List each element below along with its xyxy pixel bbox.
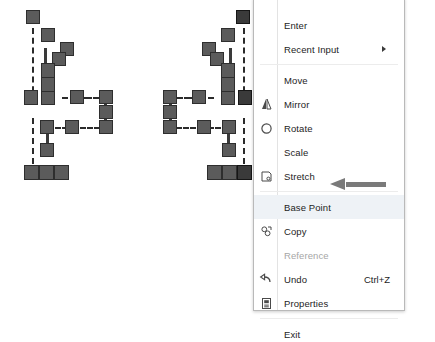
menu-separator xyxy=(260,191,398,192)
menu-separator xyxy=(260,318,398,319)
chevron-right-icon xyxy=(382,46,386,52)
properties-icon xyxy=(254,291,278,315)
cad-drawing-canvas[interactable] xyxy=(0,0,260,328)
grip-handle[interactable] xyxy=(221,63,235,78)
grip-handle[interactable] xyxy=(221,28,235,42)
menu-item-label: Undo xyxy=(284,274,307,285)
base-point-callout-arrow xyxy=(330,178,386,191)
grip-handle[interactable] xyxy=(163,105,177,119)
menu-item-reference: Reference xyxy=(254,243,404,267)
menu-item-label: Stretch xyxy=(284,171,315,182)
menu-separator xyxy=(260,64,398,65)
mirror-icon xyxy=(254,92,278,116)
grip-handle[interactable] xyxy=(221,91,235,105)
grip-handle[interactable] xyxy=(207,165,222,180)
grip-handle[interactable] xyxy=(26,10,40,24)
grip-handle[interactable] xyxy=(70,90,84,104)
grip-handle[interactable] xyxy=(39,165,54,180)
menu-item-scale[interactable]: Scale xyxy=(254,140,404,164)
menu-item-label: Properties xyxy=(284,298,328,309)
menu-item-base-point[interactable]: Base Point xyxy=(254,195,404,219)
grip-handle[interactable] xyxy=(65,120,79,134)
grip-handle[interactable] xyxy=(41,28,55,42)
grip-handle[interactable] xyxy=(236,10,250,24)
grip-handle[interactable] xyxy=(99,105,113,119)
dashed-line xyxy=(32,118,34,164)
menu-item-exit[interactable]: Exit xyxy=(254,322,404,342)
grip-handle[interactable] xyxy=(24,165,39,180)
grip-handle[interactable] xyxy=(41,77,55,92)
stretch-icon xyxy=(254,164,278,188)
menu-item-label: Recent Input xyxy=(284,44,339,55)
arrow-shaft xyxy=(346,182,386,187)
copy-icon xyxy=(254,219,278,243)
grip-handle[interactable] xyxy=(41,91,55,105)
menu-item-label: Base Point xyxy=(284,202,331,213)
dashed-line xyxy=(80,127,100,129)
dashed-line xyxy=(176,127,196,129)
dashed-line xyxy=(243,118,245,164)
grip-handle[interactable] xyxy=(163,90,177,104)
grip-handle[interactable] xyxy=(99,90,113,104)
grip-handle[interactable] xyxy=(40,143,54,157)
menu-item-copy[interactable]: Copy xyxy=(254,219,404,243)
menu-item-label: Scale xyxy=(284,147,308,158)
grip-handle[interactable] xyxy=(163,120,177,134)
grip-handle[interactable] xyxy=(40,120,54,134)
grip-handle[interactable] xyxy=(197,120,211,134)
menu-item-label: Reference xyxy=(284,250,329,261)
menu-item-enter[interactable]: Enter xyxy=(254,13,404,37)
menu-item-recent-input[interactable]: Recent Input xyxy=(254,37,404,61)
menu-item-list: Enter Recent Input Move Mirror xyxy=(254,0,404,342)
grip-handle[interactable] xyxy=(237,165,252,180)
grip-handle[interactable] xyxy=(238,90,252,105)
menu-item-label: Rotate xyxy=(284,123,313,134)
menu-item-move[interactable]: Move xyxy=(254,68,404,92)
arrow-head xyxy=(330,178,345,190)
menu-item-mirror[interactable]: Mirror xyxy=(254,92,404,116)
menu-item-accelerator: Ctrl+Z xyxy=(364,274,390,285)
menu-item-label: Enter xyxy=(284,20,307,31)
undo-icon xyxy=(254,267,278,291)
menu-item-label: Exit xyxy=(284,329,300,340)
grip-handle[interactable] xyxy=(221,77,235,92)
grip-handle[interactable] xyxy=(41,63,55,78)
menu-item-properties[interactable]: Properties xyxy=(254,291,404,315)
grip-handle[interactable] xyxy=(24,90,38,105)
menu-item-label: Mirror xyxy=(284,99,309,110)
grip-handle[interactable] xyxy=(99,120,113,134)
menu-item-label: Move xyxy=(284,75,308,86)
grip-handle[interactable] xyxy=(222,120,236,134)
grip-shortcut-menu[interactable]: Enter Recent Input Move Mirror xyxy=(253,0,405,311)
menu-item-label: Copy xyxy=(284,226,307,237)
grip-handle[interactable] xyxy=(192,90,206,104)
grip-handle[interactable] xyxy=(222,165,237,180)
menu-item-undo[interactable]: Undo Ctrl+Z xyxy=(254,267,404,291)
grip-handle[interactable] xyxy=(54,165,69,180)
rotate-icon xyxy=(254,116,278,140)
grip-handle[interactable] xyxy=(222,143,236,157)
menu-item-rotate[interactable]: Rotate xyxy=(254,116,404,140)
